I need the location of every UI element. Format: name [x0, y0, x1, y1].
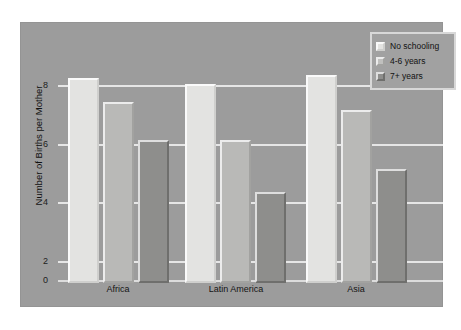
bar-africa-4-6-years[interactable]: [103, 102, 134, 283]
y-tick-label-6: 6: [22, 140, 48, 149]
legend-label-no-schooling: No schooling: [390, 41, 439, 51]
bar-africa-no-schooling[interactable]: [68, 78, 99, 283]
bar-latin-america-no-schooling[interactable]: [185, 84, 216, 283]
y-tick-label-0: 0: [22, 276, 48, 285]
y-tick-label-4: 4: [22, 198, 48, 207]
bar-asia-4-6-years[interactable]: [341, 110, 372, 283]
x-tick-label-africa: Africa: [106, 284, 129, 294]
legend-label-7-plus-years: 7+ years: [390, 71, 423, 81]
x-tick-label-asia: Asia: [347, 284, 365, 294]
legend-swatch-7-plus-years: [376, 72, 385, 81]
legend-label-4-6-years: 4-6 years: [390, 56, 425, 66]
legend-swatch-4-6-years: [376, 57, 385, 66]
y-tick-label-2: 2: [22, 257, 48, 266]
bar-latin-america-4-6-years[interactable]: [220, 140, 251, 283]
bar-asia-7-plus-years[interactable]: [376, 169, 407, 283]
y-tick-label-8: 8: [22, 81, 48, 90]
bar-latin-america-7-plus-years[interactable]: [255, 192, 286, 283]
chart-figure: Number of Births per Mother 8 6 4 2 0 Af…: [0, 0, 461, 330]
legend-item-7-plus-years[interactable]: 7+ years: [376, 69, 450, 83]
bar-asia-no-schooling[interactable]: [306, 75, 337, 283]
x-tick-label-latin-america: Latin America: [209, 284, 264, 294]
plot-area: Number of Births per Mother 8 6 4 2 0 Af…: [20, 22, 443, 307]
legend-item-4-6-years[interactable]: 4-6 years: [376, 54, 450, 68]
legend-item-no-schooling[interactable]: No schooling: [376, 39, 450, 53]
bar-africa-7-plus-years[interactable]: [138, 140, 169, 283]
chart-legend: No schooling 4-6 years 7+ years: [370, 32, 456, 90]
legend-swatch-no-schooling: [376, 42, 385, 51]
